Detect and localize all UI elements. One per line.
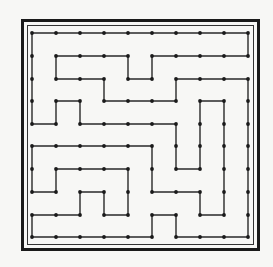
grid-node [174,99,178,103]
grid-node [198,144,202,148]
grid-node [222,167,226,171]
grid-node [30,122,34,126]
grid-node [246,167,250,171]
grid-node [174,213,178,217]
grid-node [54,77,58,81]
grid-node [174,54,178,58]
grid-node [30,213,34,217]
path-edges [32,33,248,237]
grid-node [222,122,226,126]
grid-node [54,99,58,103]
grid-node [174,235,178,239]
grid-node [150,54,154,58]
grid-node [150,31,154,35]
grid-node [126,190,130,194]
grid-node [102,190,106,194]
grid-node [102,235,106,239]
grid-node [198,31,202,35]
grid-node [30,31,34,35]
grid-node [150,99,154,103]
grid-node [150,213,154,217]
grid-node [126,31,130,35]
grid-node [126,54,130,58]
grid-node [30,99,34,103]
grid-node [198,190,202,194]
grid-node [78,167,82,171]
grid-node [126,144,130,148]
grid-node [54,54,58,58]
grid-node [126,167,130,171]
grid-node [30,167,34,171]
grid-node [78,54,82,58]
grid-node [246,122,250,126]
grid-node [102,122,106,126]
grid-node [78,213,82,217]
grid-node [246,190,250,194]
grid-node [150,235,154,239]
grid-path-diagram [0,0,273,267]
grid-node [102,167,106,171]
grid-node [246,213,250,217]
grid-node [222,54,226,58]
grid-node [54,190,58,194]
grid-node [222,190,226,194]
grid-node [30,190,34,194]
grid-node [222,99,226,103]
grid-node [78,144,82,148]
grid-node [54,144,58,148]
grid-node [150,144,154,148]
grid-node [174,122,178,126]
grid-node [30,235,34,239]
grid-node [150,190,154,194]
grid-node [78,122,82,126]
grid-node [174,77,178,81]
grid-node [126,99,130,103]
grid-node [198,122,202,126]
grid-node [198,235,202,239]
grid-node [198,54,202,58]
grid-node [222,235,226,239]
grid-node [198,99,202,103]
grid-node [102,54,106,58]
grid-node [78,77,82,81]
grid-node [246,31,250,35]
grid-node [246,235,250,239]
grid-node [102,77,106,81]
grid-node [126,122,130,126]
grid-node [222,213,226,217]
grid-node [54,122,58,126]
grid-node [198,77,202,81]
grid-node [246,144,250,148]
grid-node [30,54,34,58]
grid-node [54,167,58,171]
grid-node [174,167,178,171]
grid-node [174,144,178,148]
grid-node [30,77,34,81]
grid-nodes [30,31,250,239]
grid-node [246,99,250,103]
grid-node [126,213,130,217]
grid-node [30,144,34,148]
grid-node [102,213,106,217]
grid-node [54,31,58,35]
grid-node [246,77,250,81]
grid-node [198,213,202,217]
grid-node [78,235,82,239]
grid-node [246,54,250,58]
grid-node [150,122,154,126]
grid-node [78,190,82,194]
grid-node [102,99,106,103]
grid-node [126,77,130,81]
grid-node [174,31,178,35]
grid-node [78,31,82,35]
grid-node [54,235,58,239]
grid-node [126,235,130,239]
path-line [32,33,248,237]
grid-node [150,77,154,81]
grid-node [102,144,106,148]
grid-node [174,190,178,194]
grid-node [78,99,82,103]
grid-node [102,31,106,35]
grid-node [222,77,226,81]
grid-node [54,213,58,217]
